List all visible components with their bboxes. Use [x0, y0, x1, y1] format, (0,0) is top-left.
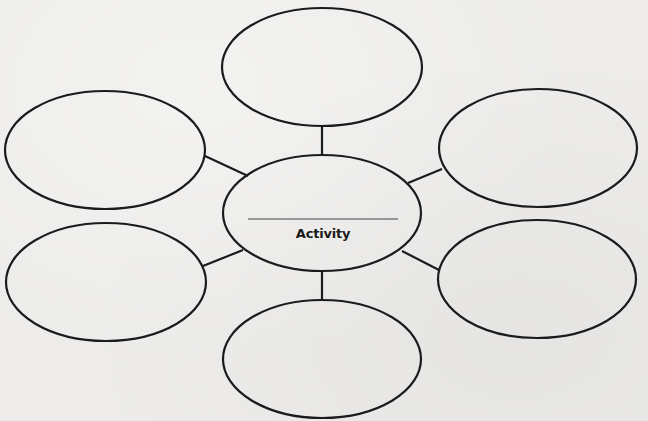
- connector-upper-left: [205, 156, 248, 176]
- satellite-field-upper-right[interactable]: [449, 98, 627, 198]
- satellite-field-bottom[interactable]: [233, 309, 411, 409]
- web-organizer-page: Activity: [0, 0, 648, 421]
- center-label-activity: Activity: [247, 226, 399, 241]
- connector-lower-left: [203, 250, 243, 266]
- satellite-field-lower-right[interactable]: [448, 229, 626, 329]
- satellite-field-upper-left[interactable]: [15, 100, 195, 200]
- satellite-field-lower-left[interactable]: [16, 232, 196, 332]
- connector-lower-right: [402, 251, 439, 270]
- connector-upper-right: [408, 169, 442, 183]
- satellite-field-top[interactable]: [232, 17, 412, 117]
- center-blank-field[interactable]: [250, 185, 396, 217]
